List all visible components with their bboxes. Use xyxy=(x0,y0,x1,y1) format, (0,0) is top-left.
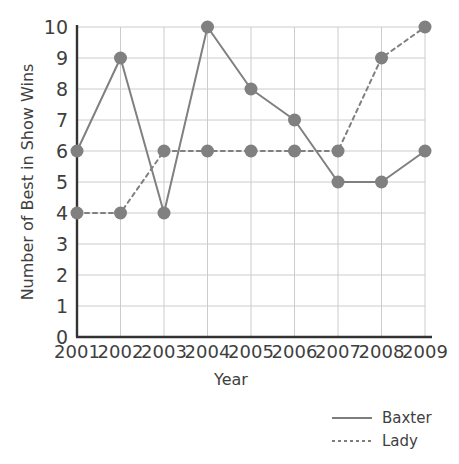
data-point xyxy=(158,207,171,220)
x-axis-title: Year xyxy=(213,370,248,389)
data-point xyxy=(201,21,214,34)
y-tick-label: 6 xyxy=(56,140,68,162)
data-point xyxy=(71,207,84,220)
x-tick-label: 2007 xyxy=(315,341,361,362)
data-point xyxy=(288,114,301,127)
chart-legend: BaxterLady xyxy=(332,409,432,450)
data-point xyxy=(114,207,127,220)
y-tick-label: 2 xyxy=(56,264,68,286)
x-axis-tick-labels: 200120022003200420052006200720082009 xyxy=(54,341,448,362)
data-point xyxy=(288,145,301,158)
x-tick-label: 2005 xyxy=(228,341,274,362)
x-tick-label: 2001 xyxy=(54,341,100,362)
y-tick-label: 3 xyxy=(56,233,68,255)
y-tick-label: 5 xyxy=(56,171,68,193)
data-point xyxy=(419,21,432,34)
y-tick-label: 8 xyxy=(56,78,68,100)
y-tick-label: 10 xyxy=(44,16,68,38)
data-point xyxy=(419,145,432,158)
y-tick-label: 1 xyxy=(56,295,68,317)
data-point xyxy=(332,145,345,158)
chart-canvas: 012345678910 200120022003200420052006200… xyxy=(0,0,459,464)
y-axis-title: Number of Best in Show Wins xyxy=(18,64,37,301)
x-tick-label: 2008 xyxy=(359,341,405,362)
x-tick-label: 2002 xyxy=(98,341,144,362)
x-tick-label: 2006 xyxy=(272,341,318,362)
y-axis-tick-labels: 012345678910 xyxy=(44,16,68,348)
data-point xyxy=(375,176,388,189)
x-tick-label: 2009 xyxy=(402,341,448,362)
data-point xyxy=(201,145,214,158)
legend-label-baxter: Baxter xyxy=(382,409,432,427)
x-tick-label: 2003 xyxy=(141,341,187,362)
data-point xyxy=(245,145,258,158)
y-tick-label: 7 xyxy=(56,109,68,131)
y-tick-label: 4 xyxy=(56,202,68,224)
legend-label-lady: Lady xyxy=(382,432,418,450)
data-point xyxy=(71,145,84,158)
data-point xyxy=(332,176,345,189)
x-tick-label: 2004 xyxy=(185,341,231,362)
data-point xyxy=(158,145,171,158)
y-tick-label: 9 xyxy=(56,47,68,69)
line-chart: 012345678910 200120022003200420052006200… xyxy=(0,0,459,464)
data-point xyxy=(245,83,258,96)
data-point xyxy=(114,52,127,65)
data-point xyxy=(375,52,388,65)
